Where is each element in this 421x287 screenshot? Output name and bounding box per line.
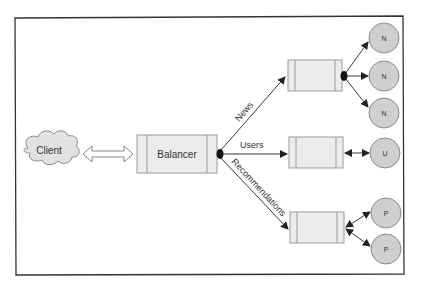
news-node-2: N xyxy=(369,61,399,91)
svg-text:N: N xyxy=(381,110,386,117)
users-route-label: Users xyxy=(240,140,264,150)
news-service-box xyxy=(288,60,342,91)
svg-text:P: P xyxy=(384,210,389,217)
users-service-box xyxy=(289,137,343,168)
balancer-label: Balancer xyxy=(157,149,197,160)
recommendations-service-box xyxy=(290,212,344,243)
architecture-diagram: Client Balancer News Users Recommendatio… xyxy=(0,0,421,287)
recommendations-node-2: P xyxy=(371,234,401,264)
svg-text:P: P xyxy=(384,246,389,253)
svg-text:N: N xyxy=(381,73,386,80)
client-label: Client xyxy=(36,145,62,156)
news-node-1: N xyxy=(369,23,399,53)
client-cloud: Client xyxy=(24,131,79,165)
balancer-box: Balancer xyxy=(137,135,217,173)
svg-text:U: U xyxy=(382,150,387,157)
news-node-3: N xyxy=(369,98,399,128)
users-node-1: U xyxy=(370,138,400,168)
recommendations-node-1: P xyxy=(371,198,401,228)
svg-text:N: N xyxy=(381,35,386,42)
